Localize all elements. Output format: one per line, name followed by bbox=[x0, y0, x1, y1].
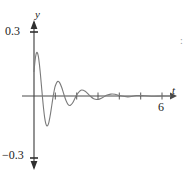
y-axis-arrow-down-icon bbox=[31, 161, 38, 170]
damped-curve bbox=[34, 52, 171, 126]
t-axis-label: t bbox=[172, 85, 175, 96]
plot-canvas bbox=[0, 0, 185, 177]
y-axis-label: y bbox=[35, 9, 40, 20]
y-axis-max-tick-label: 0.3 bbox=[5, 25, 20, 37]
edge-artifact-glyph: : bbox=[180, 36, 183, 45]
damped-oscillation-figure: 0.3 −0.3 6 y t : bbox=[0, 0, 185, 177]
y-axis-min-tick-label: −0.3 bbox=[2, 149, 24, 161]
y-axis-arrow-up-icon bbox=[31, 20, 38, 29]
x-axis-tick-label-6: 6 bbox=[158, 101, 164, 113]
